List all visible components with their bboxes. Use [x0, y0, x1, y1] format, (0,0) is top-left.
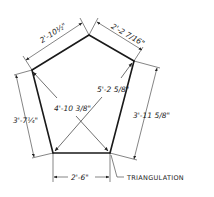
pentagon-outline: [32, 35, 134, 153]
pentagon-dimension-drawing: 2'-10½" 2'-2 7/16" 3'-7¼" 3'-11 5/8" 2'-…: [0, 0, 214, 197]
label-triangulation: TRIANGULATION: [126, 174, 184, 182]
label-diagonal-right: 5'-2 5/8": [97, 85, 129, 94]
label-top-right-side: 2'-2 7/16": [110, 22, 147, 48]
label-bottom-side: 2'-6": [71, 173, 89, 182]
label-diagonal-left: 4'-10 3/8": [54, 104, 91, 113]
edge-right: [110, 61, 134, 153]
label-right-side: 3'-11 5/8": [133, 111, 170, 120]
label-left-side: 3'-7¼": [13, 116, 38, 125]
triangulation-callout: TRIANGULATION: [111, 155, 184, 182]
label-top-left-side: 2'-10½": [38, 21, 68, 45]
